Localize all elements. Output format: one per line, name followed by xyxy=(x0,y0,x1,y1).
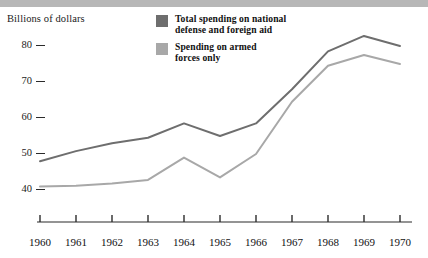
x-tick-label: 1969 xyxy=(344,236,384,248)
x-tick-label: 1970 xyxy=(380,236,420,248)
x-tick-label: 1962 xyxy=(92,236,132,248)
x-tick-label: 1966 xyxy=(236,236,276,248)
x-tick-label: 1964 xyxy=(164,236,204,248)
plot-area: 4050607080 19601961196219631964196519661… xyxy=(0,0,428,258)
x-tick-label: 1963 xyxy=(128,236,168,248)
chart-page: Billions of dollars Total spending on na… xyxy=(0,0,428,258)
x-tick-label: 1961 xyxy=(56,236,96,248)
x-axis xyxy=(0,0,428,258)
x-tick-label: 1965 xyxy=(200,236,240,248)
x-tick-label: 1960 xyxy=(20,236,60,248)
x-tick-label: 1968 xyxy=(308,236,348,248)
x-tick-label: 1967 xyxy=(272,236,312,248)
